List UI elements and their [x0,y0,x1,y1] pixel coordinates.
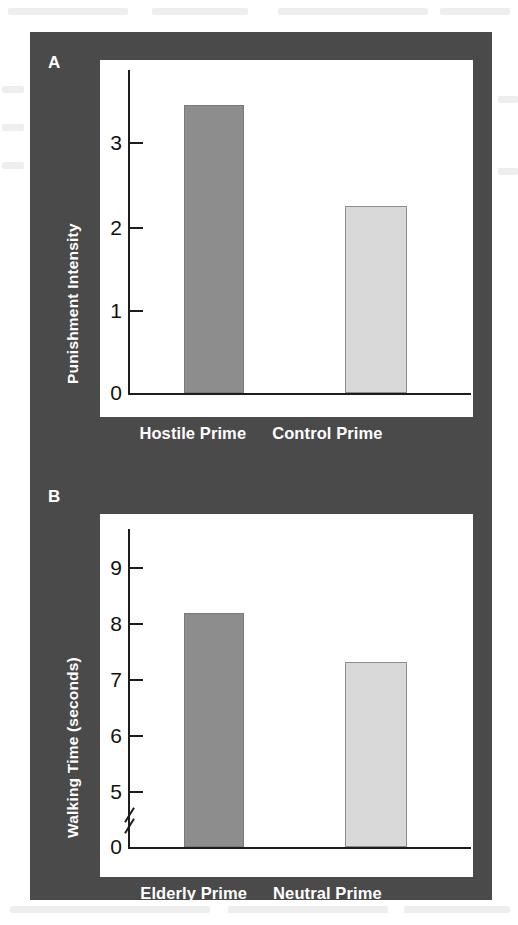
panel-a: A Punishment Intensity 3 2 1 0 Hostile P… [30,32,492,466]
figure-frame: A Punishment Intensity 3 2 1 0 Hostile P… [30,32,492,900]
panel-b-bar-neutral-prime[interactable] [345,662,407,847]
panel-a-tick-label-0: 0 [100,382,122,403]
panel-b: B Walking Time (seconds) 9 8 7 6 5 [30,466,492,900]
panel-a-tick-1 [130,310,143,312]
panel-a-tick-3 [130,142,143,144]
panel-a-tick-label-2: 2 [100,217,122,238]
panel-b-tick-label-9: 9 [100,557,122,578]
panel-b-tick-8 [130,623,143,625]
panel-b-tick-label-0: 0 [100,836,122,857]
panel-b-y-axis-title: Walking Time (seconds) [64,657,82,838]
panel-b-letter: B [48,488,61,505]
panel-b-tick-label-7: 7 [100,669,122,690]
panel-a-x-axis-line [128,393,471,395]
panel-b-tick-5 [130,791,143,793]
panel-b-x-axis-line [128,847,471,849]
panel-b-bar-elderly-prime[interactable] [184,613,244,847]
panel-b-tick-7 [130,679,143,681]
panel-a-plot-area: 3 2 1 0 [100,60,473,417]
panel-b-tick-label-6: 6 [100,725,122,746]
panel-a-x-label-hostile-prime: Hostile Prime [139,424,246,443]
panel-a-bar-hostile-prime[interactable] [184,105,244,393]
panel-b-tick-9 [130,567,143,569]
panel-a-tick-label-3: 3 [100,132,122,153]
panel-b-tick-6 [130,735,143,737]
panel-b-y-axis-line [128,529,130,849]
panel-b-axis-break-icon [120,807,142,833]
panel-a-x-axis-labels: Hostile PrimeControl Prime [30,424,492,443]
panel-b-x-label-elderly-prime: Elderly Prime [140,884,247,903]
panel-a-y-axis-line [128,70,130,395]
panel-a-letter: A [48,54,61,71]
panel-b-tick-label-8: 8 [100,613,122,634]
panel-a-tick-label-1: 1 [100,300,122,321]
panel-b-tick-label-5: 5 [100,781,122,802]
panel-a-bar-control-prime[interactable] [345,206,407,393]
panel-b-x-axis-labels: Elderly PrimeNeutral Prime [30,884,492,903]
panel-a-x-label-control-prime: Control Prime [272,424,382,443]
panel-b-x-label-neutral-prime: Neutral Prime [273,884,382,903]
panel-a-tick-2 [130,227,143,229]
panel-b-plot-area: 9 8 7 6 5 0 [100,514,473,877]
panel-a-y-axis-title: Punishment Intensity [64,223,82,384]
